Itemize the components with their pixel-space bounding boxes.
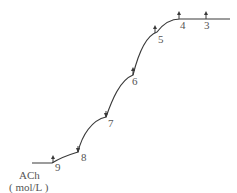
axis-label-unit: ( mol/L ): [9, 181, 49, 193]
marker-label-4: 4: [180, 19, 186, 31]
response-trace: [32, 19, 230, 163]
marker-label-7: 7: [108, 117, 114, 129]
marker-label-8: 8: [81, 151, 87, 163]
arrow-marker-3: [204, 11, 208, 19]
marker-label-5: 5: [158, 33, 164, 45]
dose-response-figure: 9 8 7 6 5 4 3 ACh ( mol/L ): [0, 0, 237, 193]
axis-label-ach: ACh: [19, 169, 40, 181]
marker-label-6: 6: [132, 75, 138, 87]
marker-label-9: 9: [55, 161, 61, 173]
marker-label-3: 3: [204, 19, 210, 31]
arrow-marker-4: [177, 11, 181, 19]
